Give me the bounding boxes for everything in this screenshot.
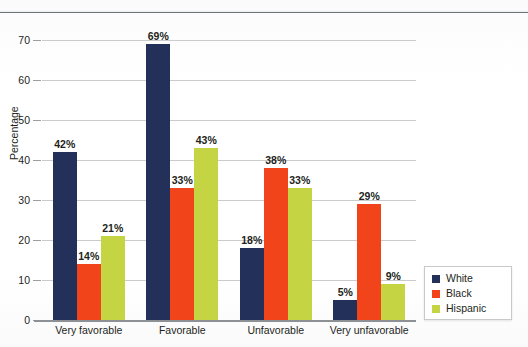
y-tick-label: 60 [4, 74, 30, 86]
bar-value-label: 42% [54, 138, 75, 150]
legend-swatch-white-icon [432, 275, 440, 283]
y-tick-mark [33, 80, 41, 81]
y-tick-mark [33, 200, 41, 201]
bar-group: 69%33%43%Favorable [136, 40, 230, 320]
bar-black: 14% [77, 264, 101, 320]
page-top-rule [0, 12, 528, 13]
x-axis-category-label: Favorable [159, 324, 206, 336]
legend-item-white: White [432, 271, 511, 286]
bar-value-label: 29% [359, 190, 380, 202]
bar-hispanic: 33% [288, 188, 312, 320]
bar-group: 42%14%21%Very favorable [42, 40, 136, 320]
y-tick-label: 70 [4, 34, 30, 46]
x-axis-category-label: Very favorable [55, 324, 122, 336]
y-tick-label: 20 [4, 234, 30, 246]
bar-black: 29% [357, 204, 381, 320]
plot-area: 010203040506070 Percentage 42%14%21%Very… [42, 40, 416, 320]
bar-value-label: 33% [289, 174, 310, 186]
y-tick-mark [33, 160, 41, 161]
legend-swatch-black-icon [432, 290, 440, 298]
bar-white: 42% [53, 152, 77, 320]
legend-label-black: Black [446, 288, 472, 299]
legend-label-white: White [446, 273, 473, 284]
legend-swatch-hispanic-icon [432, 305, 440, 313]
bar-hispanic: 43% [194, 148, 218, 320]
y-axis-title: Percentage [8, 106, 20, 160]
legend-item-hispanic: Hispanic [432, 301, 511, 316]
x-axis-category-label: Unfavorable [247, 324, 304, 336]
bar-black: 33% [170, 188, 194, 320]
bar-group: 18%38%33%Unfavorable [229, 40, 323, 320]
bar-hispanic: 9% [381, 284, 405, 320]
bar-value-label: 5% [338, 286, 353, 298]
y-tick-label: 0 [4, 314, 30, 326]
chart-legend: White Black Hispanic [424, 266, 512, 320]
y-tick-mark [33, 120, 41, 121]
bar-white: 18% [240, 248, 264, 320]
bar-white: 69% [146, 44, 170, 320]
legend-item-black: Black [432, 286, 511, 301]
bar-value-label: 43% [196, 134, 217, 146]
bar-value-label: 38% [265, 154, 286, 166]
bar-white: 5% [333, 300, 357, 320]
bar-value-label: 18% [241, 234, 262, 246]
bar-hispanic: 21% [101, 236, 125, 320]
bar-black: 38% [264, 168, 288, 320]
bar-value-label: 33% [172, 174, 193, 186]
y-tick-label: 10 [4, 274, 30, 286]
y-tick-label: 30 [4, 194, 30, 206]
bar-value-label: 14% [78, 250, 99, 262]
bar-value-label: 9% [386, 270, 401, 282]
x-axis-category-label: Very unfavorable [330, 324, 409, 336]
x-axis-line [34, 320, 416, 322]
legend-label-hispanic: Hispanic [446, 303, 486, 314]
y-tick-mark [33, 280, 41, 281]
y-tick-mark [33, 240, 41, 241]
chart-page: 010203040506070 Percentage 42%14%21%Very… [0, 0, 528, 347]
y-tick-mark [33, 40, 41, 41]
bar-value-label: 69% [148, 30, 169, 42]
bar-group: 5%29%9%Very unfavorable [323, 40, 417, 320]
bar-value-label: 21% [102, 222, 123, 234]
